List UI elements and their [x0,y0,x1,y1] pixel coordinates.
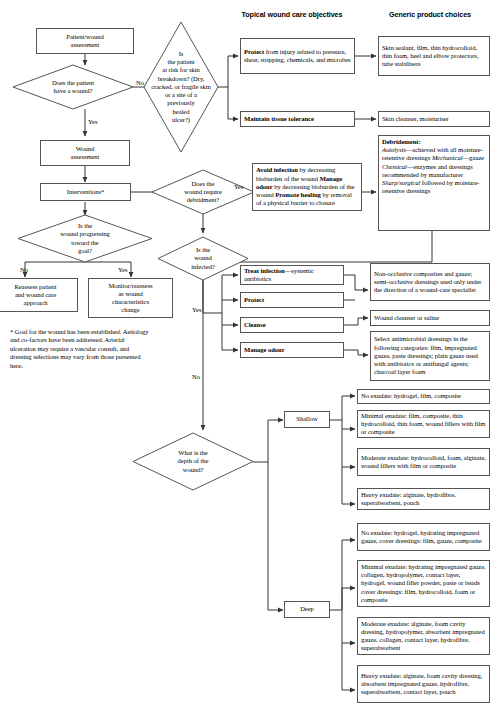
objective-treat-infection-text: Treat infection—systemic antibiotics [244,267,340,283]
node-is-wound-infected: Is the wound infected? [158,237,248,280]
node-depth-of-wound-label: What is the depth of the wound? [172,449,215,474]
header-topical-objectives: Topical wound care objectives [228,10,356,19]
node-is-wound-infected-label: Is the wound infected? [185,246,221,271]
node-is-wound-progressing-label: Is the wound progressing toward the goal… [54,222,116,255]
node-does-patient-have-wound: Does the patient have a wound? [13,65,133,109]
objective-protect-label: Protect [244,296,264,304]
product-debridement: Debridement:Autolysis—achieved with all … [378,135,490,231]
objective-debridement-text: Avoid infection by decreasing bioburden … [256,166,358,207]
objective-treat-infection: Treat infection—systemic antibiotics [240,265,344,285]
objective-maintain-tissue-tolerance: Maintain tissue tolerance [240,111,355,127]
node-wound-require-debridement: Does the wound require debridment? [152,170,254,214]
product-shallow-minimal-exudate: Minimal exudate: film, composite, thin h… [357,410,490,438]
product-shallow-no-exudate: No exudate: hydrogel, film, composite [357,389,490,404]
product-wound-cleanser: Wound cleanser or saline [370,310,490,326]
node-depth-of-wound: What is the depth of the wound? [133,433,253,490]
product-skin-sealant: Skin sealant, film, thin hydrocolloid, t… [378,36,490,76]
product-shallow-moderate-exudate: Moderate exudate: hydrocolloid, foam, al… [357,448,490,476]
edge-label-yes-have-wound: Yes [88,118,98,126]
node-wound-require-debridement-label: Does the wound require debridment? [178,180,228,205]
product-skin-cleanser: Skin cleanser, moisturiser [378,111,490,127]
node-is-wound-progressing: Is the wound progressing toward the goal… [18,215,152,262]
node-at-risk-skin-breakdown: Is the patient at risk for skin breakdow… [144,22,218,152]
node-shallow: Shallow [284,411,330,428]
node-interventions: Interventions* [40,183,131,201]
node-wound-assessment: Wound assessment [40,140,130,166]
node-deep: Deep [284,601,330,618]
objective-cleanse-label: Cleanse [244,321,266,329]
product-deep-heavy-exudate: Heavy exudate: alginate, foam cavity dre… [357,665,490,703]
objective-cleanse: Cleanse [240,317,344,333]
objective-manage-odour: Manage odour [240,342,344,358]
objective-protect: Protect [240,292,344,308]
edge-label-yes-infected: Yes [192,306,202,314]
node-reassess-patient: Reassess patient and wound care approach [0,278,78,312]
objective-manage-odour-label: Manage odour [244,346,285,354]
objective-debridement-goals: Avoid infection by decreasing bioburden … [252,163,362,211]
product-shallow-heavy-exudate: Heavy exudate: alginate, hydrofibre, sup… [357,488,490,510]
edge-label-yes-progressing: Yes [118,266,128,274]
product-antimicrobial: Select antimicrobial dressings in the fo… [370,331,490,381]
edge-label-yes-debridement: Yes [234,183,244,191]
product-debridement-text: Debridement:Autolysis—achieved with all … [382,138,486,195]
footnote: * Goal for the wound has been establishe… [10,328,150,370]
node-at-risk-skin-breakdown-label: Is the patient at risk for skin breakdow… [150,50,212,124]
flowchart-canvas: Topical wound care objectives Generic pr… [0,0,498,722]
objective-protect-text: Protect from injury related to pressure,… [244,48,351,64]
node-patient-wound-assessment: Patient/wound assessment [36,28,134,54]
product-non-occlusive: Non-occlusive composites and gauze; semi… [370,263,490,301]
objective-protect-from-injury: Protect from injury related to pressure,… [240,38,355,74]
objective-maintain-text: Maintain tissue tolerance [244,115,314,123]
product-deep-moderate-exudate: Moderate exudate: alginate, foam cavity … [357,617,490,655]
node-does-patient-have-wound-label: Does the patient have a wound? [46,79,100,95]
product-deep-no-exudate: No exudate: hydrogel, hydrating impregna… [357,523,490,551]
node-monitor-reassess: Monitor/reassess as wound characteristic… [88,278,173,318]
product-deep-minimal-exudate: Minimal exudate: hydrating impregnated g… [357,560,490,607]
edge-label-no-have-wound: No [136,79,144,87]
edge-label-no-progressing: No [20,266,28,274]
header-generic-products: Generic product choices [366,10,494,19]
edge-label-no-infected: No [192,373,200,381]
